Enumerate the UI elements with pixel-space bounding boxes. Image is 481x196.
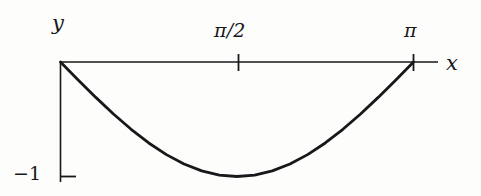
- x-tick-label-pi: π: [404, 21, 417, 40]
- curve-negative-sine: [61, 62, 414, 177]
- y-tick-label-minus-one: −1: [13, 164, 41, 183]
- x-tick-label-pi-half: π/2: [214, 21, 246, 40]
- function-plot-figure: y x π/2 π −1: [0, 0, 481, 196]
- y-axis-label: y: [52, 13, 64, 34]
- x-axis-label: x: [446, 53, 458, 74]
